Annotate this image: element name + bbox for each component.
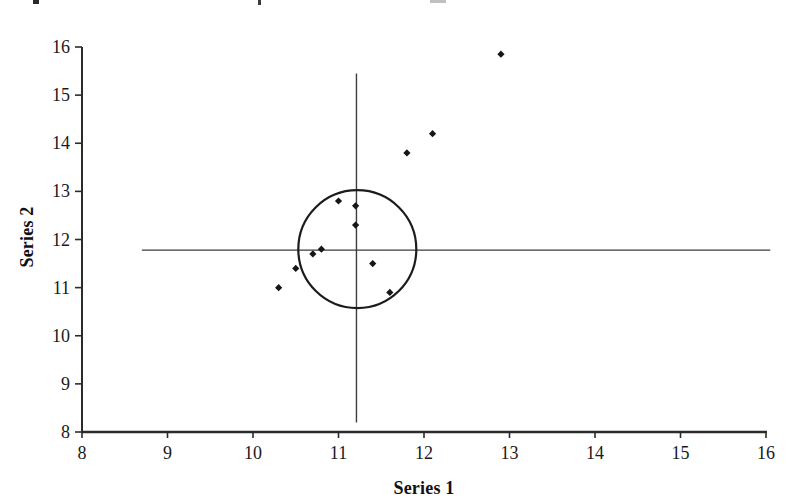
y-tick-label: 15 xyxy=(52,85,70,105)
data-point xyxy=(292,265,299,272)
y-tick-label: 11 xyxy=(53,278,70,298)
data-point xyxy=(275,284,282,291)
cluster-circle xyxy=(298,190,416,308)
data-point xyxy=(352,202,359,209)
data-point xyxy=(497,51,504,58)
x-tick-label: 8 xyxy=(78,443,87,463)
x-tick-label: 9 xyxy=(163,443,172,463)
x-tick-label: 16 xyxy=(757,443,775,463)
x-tick-label: 11 xyxy=(330,443,347,463)
scatter-chart-figure: 89101112131415168910111213141516 Series … xyxy=(0,0,788,500)
scatter-plot-canvas: 89101112131415168910111213141516 xyxy=(0,0,788,500)
y-tick-label: 16 xyxy=(52,37,70,57)
data-point xyxy=(369,260,376,267)
x-tick-label: 15 xyxy=(672,443,690,463)
x-axis-title: Series 1 xyxy=(82,477,766,499)
y-tick-label: 13 xyxy=(52,181,70,201)
y-tick-label: 14 xyxy=(52,133,70,153)
x-tick-label: 10 xyxy=(244,443,262,463)
x-tick-label: 12 xyxy=(415,443,433,463)
data-point xyxy=(309,250,316,257)
data-point xyxy=(335,197,342,204)
y-tick-label: 12 xyxy=(52,230,70,250)
data-point xyxy=(403,149,410,156)
data-point xyxy=(352,221,359,228)
y-tick-label: 10 xyxy=(52,326,70,346)
x-tick-label: 13 xyxy=(501,443,519,463)
y-tick-label: 9 xyxy=(61,374,70,394)
data-point xyxy=(429,130,436,137)
y-axis-title: Series 2 xyxy=(14,146,40,328)
data-point xyxy=(318,246,325,253)
data-point xyxy=(386,289,393,296)
x-tick-label: 14 xyxy=(586,443,604,463)
y-tick-label: 8 xyxy=(61,422,70,442)
